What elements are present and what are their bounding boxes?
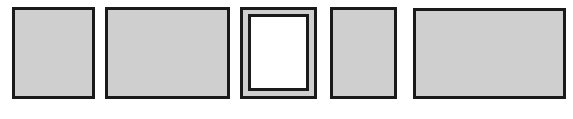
panel-2	[105, 7, 230, 99]
panel-5	[413, 8, 566, 99]
panel-3-inner	[248, 14, 309, 91]
panel-1	[12, 7, 95, 99]
panel-4	[330, 7, 397, 99]
